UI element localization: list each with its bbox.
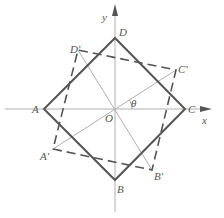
label-a: A (31, 103, 39, 115)
rotated-square-diagram: A B C D A' B' C' D' O θ x y (0, 0, 224, 218)
label-origin: O (105, 112, 113, 124)
label-x-axis: x (201, 114, 207, 126)
label-theta: θ (131, 97, 137, 109)
y-axis-arrow-icon (112, 4, 118, 16)
label-b-prime: B' (154, 170, 164, 182)
label-b: B (117, 183, 124, 195)
label-c: C (188, 103, 196, 115)
label-y-axis: y (101, 11, 107, 23)
label-d: D (118, 26, 127, 38)
label-c-prime: C' (178, 63, 188, 75)
label-d-prime: D' (69, 43, 81, 55)
label-a-prime: A' (39, 150, 50, 162)
x-axis-arrow-icon (200, 106, 212, 112)
